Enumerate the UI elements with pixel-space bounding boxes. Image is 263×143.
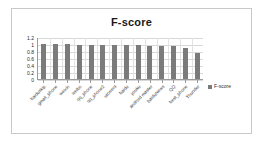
y-axis-tick-label: 0.8 [27,50,34,55]
legend-square-icon [208,85,212,89]
x-axis-tick [114,80,115,83]
x-axis-category-label: baidu [118,84,129,95]
bar-slot [179,38,191,79]
bar-slot [120,38,132,79]
bar-slot [97,38,109,79]
chart-title: F-score [12,16,251,28]
bar-slot [73,38,85,79]
bar-slot [156,38,168,79]
y-axis-tick-label: 1.2 [27,36,34,41]
bar-slot [38,38,50,79]
bar [124,45,129,79]
legend-label: F-score [214,84,231,89]
bar-slot [168,38,180,79]
x-axis-tick [173,80,174,83]
bar [147,46,152,79]
bar [89,45,94,79]
bar [159,46,164,79]
x-axis-category-label: QQ [168,84,177,93]
x-axis-tick [55,80,56,83]
x-axis-tick [126,80,127,83]
x-axis-category-label: weixin [58,84,71,97]
x-axis-tick [79,80,80,83]
y-axis-tick-label: 0.6 [27,57,34,62]
bar [183,48,188,79]
bar-slot [132,38,144,79]
x-axis-tick [43,80,44,83]
bar [53,44,58,79]
x-axis-tick [102,80,103,83]
bar-slot [85,38,97,79]
chart-container: F-score 1.210.80.60.40.20 baiduskipgmail… [11,8,252,134]
bar [77,45,82,79]
bar [171,46,176,79]
y-axis-tick-label: 0 [31,78,34,83]
x-axis-tick [90,80,91,83]
x-axis-tick [185,80,186,83]
x-axis-labels: baiduskipgmail_phoneweixinweiboqq_phoneq… [37,84,203,132]
y-axis-tick-label: 0.2 [27,71,34,76]
y-axis: 1.210.80.60.40.20 [12,33,36,85]
y-axis-tick-label: 1 [31,43,34,48]
bar [112,45,117,79]
bar [65,44,70,79]
plot-area [37,38,203,80]
x-axis-tick [197,80,198,83]
bar [100,45,105,79]
x-axis-tick [138,80,139,83]
bar-slot [191,38,203,79]
bar [195,53,200,79]
bar-slot [144,38,156,79]
bar-slot [50,38,62,79]
bar-slot [62,38,74,79]
y-axis-tick-label: 0.4 [27,64,34,69]
chart-legend: F-score [208,84,231,89]
bar-slot [109,38,121,79]
bar [136,45,141,79]
x-axis-ticks [37,80,203,83]
bar [41,44,46,79]
bars-layer [38,38,203,79]
